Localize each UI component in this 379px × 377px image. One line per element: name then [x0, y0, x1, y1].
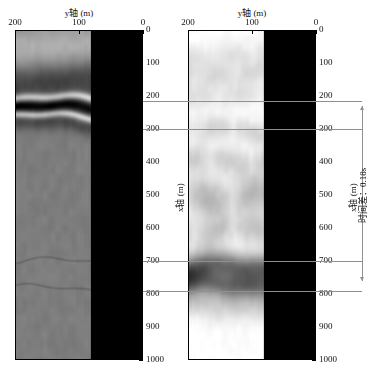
x-tick-label: 100 — [65, 17, 93, 27]
x-tick-mark — [188, 30, 189, 34]
y-tick-label: 500 — [146, 189, 160, 199]
y-tick-label: 0 — [319, 24, 324, 34]
y-tick-mark — [312, 63, 316, 64]
connector-line — [143, 291, 362, 292]
y-tick-label: 700 — [146, 255, 160, 265]
y-tick-label: 300 — [146, 123, 160, 133]
y-tick-mark — [139, 96, 143, 97]
y-tick-label: 500 — [319, 189, 333, 199]
x-tick-mark — [79, 30, 80, 34]
x-tick-label: 200 — [1, 17, 29, 27]
y-tick-label: 600 — [146, 222, 160, 232]
y-tick-label: 0 — [146, 24, 151, 34]
annotation-arrow-down-icon — [360, 277, 364, 281]
y-tick-label: 900 — [146, 321, 160, 331]
x-tick-mark — [143, 30, 144, 34]
y-tick-label: 700 — [319, 255, 333, 265]
y-tick-label: 400 — [319, 156, 333, 166]
annotation-arrow-up-icon — [360, 106, 364, 110]
y-tick-mark — [139, 228, 143, 229]
y-tick-label: 300 — [319, 123, 333, 133]
y-tick-label: 100 — [319, 57, 333, 67]
x-tick-mark — [252, 30, 253, 34]
right-panel-image — [188, 30, 316, 360]
x-tick-label: 100 — [238, 17, 266, 27]
y-tick-label: 1000 — [146, 354, 164, 364]
y-tick-label: 800 — [146, 288, 160, 298]
x-tick-label: 0 — [129, 17, 157, 27]
y-tick-label: 900 — [319, 321, 333, 331]
y-tick-mark — [312, 294, 316, 295]
y-tick-label: 100 — [146, 57, 160, 67]
y-tick-label: 200 — [319, 90, 333, 100]
y-tick-mark — [139, 195, 143, 196]
x-tick-label: 200 — [174, 17, 202, 27]
y-tick-mark — [139, 360, 143, 361]
connector-line — [143, 129, 362, 130]
time-difference-annotation: 时间差：0.18s — [356, 168, 369, 223]
y-tick-label: 1000 — [319, 354, 337, 364]
side-axis-title: x轴 (m) — [173, 183, 186, 212]
x-tick-label: 0 — [302, 17, 330, 27]
y-tick-mark — [139, 162, 143, 163]
x-tick-mark — [316, 30, 317, 34]
y-tick-label: 400 — [146, 156, 160, 166]
y-tick-mark — [139, 327, 143, 328]
y-tick-mark — [312, 96, 316, 97]
connector-line — [143, 101, 362, 102]
x-tick-mark — [15, 30, 16, 34]
left-panel-image — [15, 30, 143, 360]
y-tick-mark — [312, 195, 316, 196]
y-tick-mark — [139, 294, 143, 295]
connector-line — [143, 261, 362, 262]
y-tick-mark — [312, 162, 316, 163]
y-tick-label: 800 — [319, 288, 333, 298]
y-tick-label: 200 — [146, 90, 160, 100]
y-tick-mark — [139, 63, 143, 64]
y-tick-label: 600 — [319, 222, 333, 232]
figure-root: y轴 (m) y轴 (m) 20010002001000010020030040… — [0, 0, 379, 377]
y-tick-mark — [312, 228, 316, 229]
y-tick-mark — [312, 327, 316, 328]
y-tick-mark — [312, 360, 316, 361]
